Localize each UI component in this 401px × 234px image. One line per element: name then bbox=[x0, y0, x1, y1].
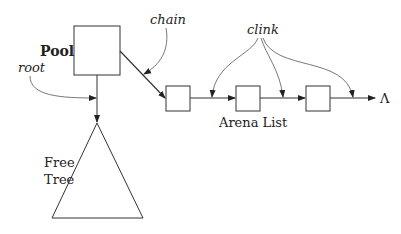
diagram-svg: Pool root chain Λ clink Arena List Free … bbox=[0, 0, 401, 234]
terminator-lambda: Λ bbox=[379, 91, 390, 106]
arena-box-3 bbox=[306, 86, 330, 111]
free-tree-label-line2: Tree bbox=[44, 172, 75, 187]
pool-box bbox=[74, 26, 120, 75]
arena-box-2 bbox=[236, 86, 260, 111]
chain-pointer bbox=[144, 28, 167, 74]
clink-pointer-3 bbox=[263, 38, 353, 97]
clink-pointer-2 bbox=[261, 38, 283, 97]
pool-diagram: Pool root chain Λ clink Arena List Free … bbox=[0, 0, 401, 234]
arena-box-1 bbox=[166, 86, 190, 111]
chain-label: chain bbox=[150, 12, 186, 27]
free-tree-label-line1: Free bbox=[44, 155, 75, 170]
clink-pointer-1 bbox=[212, 38, 258, 97]
arena-list-label: Arena List bbox=[218, 115, 288, 130]
pool-to-arena-edge bbox=[120, 51, 165, 98]
clink-label: clink bbox=[247, 22, 279, 37]
pool-label: Pool bbox=[40, 43, 74, 59]
root-label: root bbox=[18, 60, 46, 75]
root-pointer bbox=[30, 76, 96, 98]
free-tree-triangle bbox=[52, 123, 143, 218]
